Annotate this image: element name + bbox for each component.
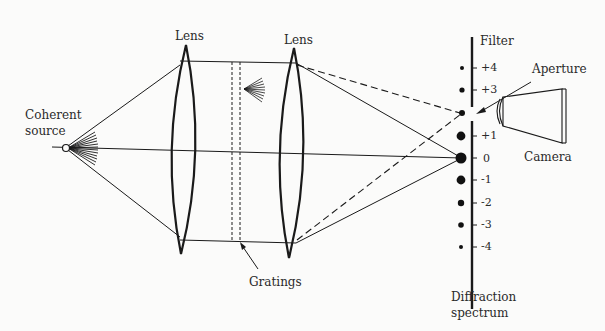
gratings-label: Gratings xyxy=(249,275,302,289)
order-minus4-dot xyxy=(459,245,463,249)
source-label-line1: Coherent xyxy=(25,108,82,122)
order-minus2-dot xyxy=(458,200,464,206)
ray-order2-bottom-dashed xyxy=(297,114,461,240)
aperture-label: Aperture xyxy=(532,62,587,76)
order-label-plus1: +1 xyxy=(481,130,497,142)
order-zero-dot xyxy=(456,153,467,164)
order-minus3-dot xyxy=(458,222,464,228)
optical-axis xyxy=(52,147,462,158)
ray-focus-bottom xyxy=(296,159,460,243)
collimated-ray-top xyxy=(180,61,296,63)
spectrum-label-line2: spectrum xyxy=(451,306,508,320)
ray-order2-top-dashed xyxy=(297,65,460,113)
coherent-source-point xyxy=(63,145,70,152)
source-label-line2: source xyxy=(25,124,66,138)
diffraction-setup-diagram xyxy=(0,0,605,331)
order-label-zero: 0 xyxy=(483,153,490,165)
camera-label: Camera xyxy=(524,150,572,164)
diffraction-orders xyxy=(456,66,467,249)
order-label-minus2: -2 xyxy=(481,197,492,209)
ray-focus-top xyxy=(296,63,460,157)
order-label-minus1: -1 xyxy=(481,174,492,186)
camera-icon xyxy=(497,89,566,143)
order-label-minus4: -4 xyxy=(481,241,492,253)
ray-source-top xyxy=(68,65,180,146)
order-plus1-dot xyxy=(457,132,466,141)
order-label-minus3: -3 xyxy=(481,219,492,231)
lens-left xyxy=(172,45,196,254)
lens-left-label: Lens xyxy=(175,29,204,43)
filter-label: Filter xyxy=(480,34,514,48)
diffracted-wave-fan-icon xyxy=(244,78,265,102)
order-plus3-dot xyxy=(459,87,464,92)
ray-source-bottom xyxy=(68,150,180,237)
lens-right-label: Lens xyxy=(284,33,313,47)
order-minus1-dot xyxy=(457,176,466,185)
spectrum-label-line1: Diffraction xyxy=(451,290,516,304)
order-plus2-dot xyxy=(459,110,465,116)
collimated-ray-bottom xyxy=(180,240,296,243)
order-plus4-dot xyxy=(460,66,464,70)
aperture-arrowhead xyxy=(476,107,486,114)
order-label-plus4: +4 xyxy=(481,62,497,74)
gratings-arrowhead xyxy=(240,242,246,250)
order-label-plus3: +3 xyxy=(481,84,497,96)
